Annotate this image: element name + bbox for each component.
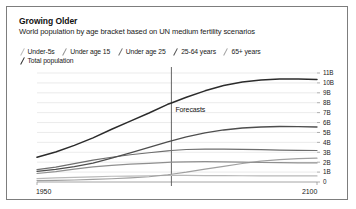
series-line-25-64-years [37,127,317,172]
y-axis-label: 4B [323,139,331,146]
y-axis-label: 8B [323,99,331,106]
series-line-under-age-15 [37,162,317,174]
chart-card: Growing Older World population by age br… [6,6,348,200]
y-axis-label: 5B [323,129,331,136]
y-axis-label: 9B [323,89,331,96]
y-axis-label: 6B [323,119,331,126]
x-axis-label: 2100 [302,188,317,195]
y-axis-label: 1B [323,168,331,175]
y-axis-label: 0 [323,178,326,185]
y-axis-label: 3B [323,149,331,156]
y-axis-label: 11B [323,69,333,76]
chart-canvas [7,7,349,201]
x-axis-label: 1950 [36,188,51,195]
forecast-annotation-label: Forecasts [175,106,205,113]
series-line-under-5s [37,175,317,178]
y-axis-label: 2B [323,159,331,166]
series-line-total-population [37,79,317,157]
y-axis-label: 10B [323,79,334,86]
y-axis-label: 7B [323,109,331,116]
chart-plot-area: 01B2B3B4B5B6B7B8B9B10B11B19502100 [7,7,349,201]
